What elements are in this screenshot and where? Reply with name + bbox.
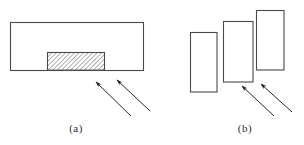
panel-a-hatched-region: [48, 53, 105, 71]
panel-b-group: [191, 11, 293, 117]
panel-b-caption: (b): [238, 122, 252, 134]
panel-a-caption: (a): [69, 122, 83, 134]
panel-b-rect-middle: [224, 22, 254, 83]
panel-a-arrow-right: [117, 80, 150, 111]
panel-b-rect-right: [257, 11, 285, 71]
diagram-canvas: [0, 0, 304, 145]
panel-b-rect-left: [191, 33, 218, 93]
panel-a-arrow-left: [96, 82, 131, 116]
panel-a-group: [11, 23, 151, 117]
figure-container: (a) (b): [0, 0, 304, 145]
panel-b-arrow-left: [242, 86, 274, 116]
